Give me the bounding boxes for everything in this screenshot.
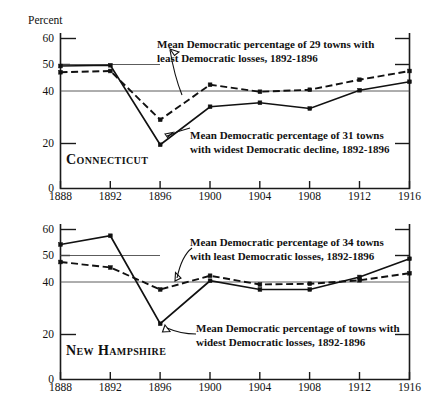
y-tick-label-60: 60 xyxy=(43,223,55,235)
y-tick-label-60: 60 xyxy=(43,32,55,44)
data-point-marker xyxy=(258,288,262,292)
data-point-marker xyxy=(108,69,112,73)
x-tick-label-1904: 1904 xyxy=(248,190,271,202)
leader-widest-losses xyxy=(167,328,196,334)
data-point-marker xyxy=(59,70,63,74)
connecticut-svg: Percent 60 50 40 20 0 xyxy=(0,0,443,206)
data-point-marker xyxy=(208,83,212,87)
data-point-marker xyxy=(108,234,112,238)
y-tick-label-50: 50 xyxy=(43,58,55,70)
annotation-widest-decline-line1: Mean Democratic percentage of 31 towns xyxy=(190,129,384,141)
figure-root: Percent 60 50 40 20 0 xyxy=(0,0,443,412)
y-tick-label-40: 40 xyxy=(43,276,55,288)
annotation-widest-losses-line2: widest Democratic losses, 1892-1896 xyxy=(196,336,366,348)
data-point-marker xyxy=(158,118,162,122)
data-point-marker xyxy=(208,274,212,278)
data-point-marker xyxy=(59,64,63,68)
x-tick-label-1900: 1900 xyxy=(199,190,222,202)
y-tick-label-20: 20 xyxy=(43,137,55,149)
x-tick-label-1896: 1896 xyxy=(149,190,172,202)
x-tick-label-1908: 1908 xyxy=(298,381,321,393)
annotation-least-losses-line1: Mean Democratic percentage of 34 towns xyxy=(190,236,384,248)
x-tick-label-1908: 1908 xyxy=(298,190,321,202)
x-tick-label-1916: 1916 xyxy=(398,190,421,202)
new-hampshire-svg: 60 50 40 20 0 xyxy=(0,206,443,412)
data-point-marker xyxy=(258,101,262,105)
y-tick-label-20: 20 xyxy=(43,328,55,340)
y-axis-title: Percent xyxy=(28,14,63,26)
data-point-marker xyxy=(108,266,112,270)
data-point-marker xyxy=(59,260,63,264)
x-tick-label-1912: 1912 xyxy=(348,190,371,202)
data-point-marker xyxy=(408,271,412,275)
data-point-marker xyxy=(208,105,212,109)
data-point-marker xyxy=(158,288,162,292)
data-point-marker xyxy=(308,288,312,292)
x-tick-label-1912: 1912 xyxy=(348,381,371,393)
data-point-marker xyxy=(208,279,212,283)
x-tick-label-1888: 1888 xyxy=(49,381,72,393)
series-line-dashed xyxy=(61,71,410,120)
annotation-least-losses-line2: least Democratic losses, 1892-1896 xyxy=(157,52,318,64)
data-point-marker xyxy=(59,243,63,247)
data-point-marker xyxy=(308,282,312,286)
data-point-marker xyxy=(408,80,412,84)
x-tick-label-1904: 1904 xyxy=(248,381,271,393)
x-tick-label-1888: 1888 xyxy=(49,190,72,202)
x-tick-label-1900: 1900 xyxy=(199,381,222,393)
annotation-least-losses-line2: with least Democratic losses, 1892-1896 xyxy=(190,250,375,262)
data-point-marker xyxy=(108,63,112,67)
data-point-marker xyxy=(358,88,362,92)
chart-panel-connecticut: Percent 60 50 40 20 0 xyxy=(0,0,443,206)
chart-panel-new-hampshire: 60 50 40 20 0 xyxy=(0,206,443,412)
data-point-marker xyxy=(358,78,362,82)
x-tick-label-1892: 1892 xyxy=(99,381,122,393)
y-tick-label-40: 40 xyxy=(43,85,55,97)
data-point-marker xyxy=(158,322,162,326)
x-tick-label-1892: 1892 xyxy=(99,190,122,202)
data-point-marker xyxy=(358,275,362,279)
x-tick-label-1916: 1916 xyxy=(398,381,421,393)
panel-label-connecticut: Connecticut xyxy=(66,152,148,167)
data-point-marker xyxy=(408,69,412,73)
data-point-marker xyxy=(258,90,262,94)
annotation-widest-losses-line1: Mean Democratic percentage of towns with xyxy=(196,322,400,334)
x-tick-label-1896: 1896 xyxy=(149,381,172,393)
y-tick-label-50: 50 xyxy=(43,249,55,261)
panel-label-new-hampshire: New Hampshire xyxy=(66,343,166,358)
data-point-marker xyxy=(308,107,312,111)
data-point-marker xyxy=(158,143,162,147)
data-point-marker xyxy=(258,283,262,287)
annotation-widest-decline-line2: with widest Democratic decline, 1892-189… xyxy=(190,143,390,155)
data-point-marker xyxy=(308,88,312,92)
data-point-marker xyxy=(408,257,412,261)
annotation-least-losses-line1: Mean Democratic percentage of 29 towns w… xyxy=(157,38,374,50)
